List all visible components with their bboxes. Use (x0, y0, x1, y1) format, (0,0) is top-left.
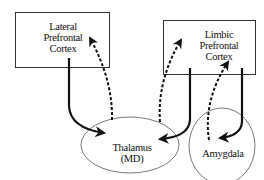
thalamus-line-2: (MD) (102, 153, 162, 164)
lateral-pfc-line-2: Prefrontal (18, 32, 108, 43)
limbic-pfc-line-1: Limbic (184, 29, 254, 40)
arrow-limbic-to-thalamus (160, 68, 190, 139)
thalamus-line-1: Thalamus (102, 142, 162, 153)
amygdala-line-1: Amygdala (193, 148, 253, 159)
amygdala-label: Amygdala (193, 148, 253, 159)
lateral-pfc-label: Lateral Prefrontal Cortex (18, 21, 108, 54)
thalamus-label: Thalamus (MD) (102, 142, 162, 164)
limbic-pfc-line-2: Prefrontal (184, 40, 254, 51)
lateral-pfc-line-1: Lateral (18, 21, 108, 32)
limbic-pfc-line-3: Cortex (184, 51, 254, 62)
arrow-lateral-to-thalamus (69, 58, 104, 133)
amygdala-ellipse (189, 108, 255, 180)
limbic-pfc-label: Limbic Prefrontal Cortex (184, 29, 254, 62)
lateral-pfc-line-3: Cortex (18, 43, 108, 54)
arrow-limbic-to-amygdala (220, 68, 242, 138)
